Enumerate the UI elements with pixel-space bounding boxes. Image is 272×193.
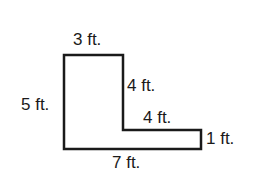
label-top-3ft: 3 ft.	[73, 31, 101, 48]
label-left-5ft: 5 ft.	[21, 96, 49, 113]
label-right-1ft: 1 ft.	[206, 130, 234, 147]
label-inner-vertical-4ft: 4 ft.	[127, 77, 155, 94]
label-inner-horizontal-4ft: 4 ft.	[143, 109, 171, 126]
label-bottom-7ft: 7 ft.	[112, 154, 140, 171]
diagram-canvas: 3 ft. 5 ft. 4 ft. 4 ft. 1 ft. 7 ft.	[0, 0, 272, 193]
